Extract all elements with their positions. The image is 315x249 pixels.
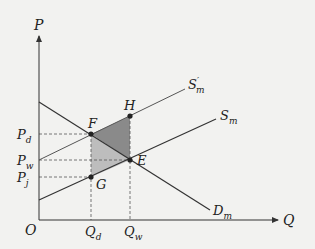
point-e [127, 157, 132, 162]
origin-label: O [25, 222, 37, 238]
label-pw: Pw [16, 153, 34, 171]
point-h [127, 113, 132, 118]
x-axis-label: Q [283, 212, 295, 228]
supply-demand-diagram: P Q O F H E G S′m Sm Dm Pd Pw Pj Qd Qw [0, 0, 315, 249]
point-f [88, 131, 93, 136]
label-e: E [136, 153, 147, 168]
label-pj: Pj [16, 170, 29, 188]
label-h: H [123, 98, 136, 113]
label-f: F [87, 116, 98, 131]
label-qd: Qd [85, 224, 102, 242]
point-g [88, 174, 93, 179]
label-qw: Qw [124, 224, 143, 242]
label-pd: Pd [16, 127, 32, 145]
label-demand: Dm [212, 203, 232, 221]
y-axis-label: P [33, 17, 44, 33]
label-g: G [96, 177, 106, 192]
label-supply-shifted: S′m [188, 76, 205, 95]
label-supply: Sm [220, 108, 237, 126]
